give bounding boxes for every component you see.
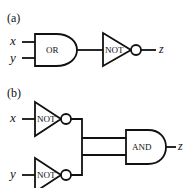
logic-circuit-diagram: (a) x y OR NOT z (b) x NOT y NOT [0,0,188,188]
panel-b-input-y: y [8,166,16,181]
wire-bus [71,119,82,175]
panel-a: (a) x y OR NOT z [7,11,164,66]
panel-b: (b) x NOT y NOT AND z [7,86,183,188]
panel-b-input-x: x [9,110,16,125]
panel-b-output-z: z [177,139,183,153]
inversion-bubble [131,45,141,55]
not-gate-x-label: NOT [37,114,56,124]
panel-a-output-z: z [158,42,164,56]
inversion-bubble-x [61,114,71,124]
panel-a-input-x: x [9,33,16,48]
panel-a-input-y: y [8,50,16,65]
not-gate-y-label: NOT [37,170,56,180]
panel-b-label: (b) [7,86,21,100]
and-gate-label: AND [132,142,152,152]
panel-a-label: (a) [7,11,20,25]
not-gate-label: NOT [105,45,124,55]
or-gate-label: OR [46,45,59,55]
inversion-bubble-y [61,170,71,180]
